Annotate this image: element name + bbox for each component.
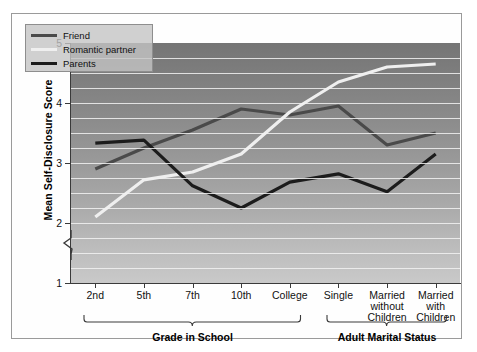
bracket-icon [326,314,447,327]
x-tick [387,283,388,288]
gridline [71,118,460,119]
x-tick [241,283,242,288]
x-tick [95,283,96,288]
legend-swatch-icon [31,34,57,37]
figure: Mean Self-Disclosure Score 12345 2nd5th7… [0,0,477,352]
y-tick [65,103,70,104]
series-line-parents [95,140,435,208]
y-tick-label: 3 [46,157,62,169]
y-tick-label: 4 [46,97,62,109]
x-tick [144,283,145,288]
gridline [71,163,460,164]
bracket-icon [83,314,302,327]
group-bracket-adult-marital-status: Adult Marital Status [326,314,447,345]
legend-item-parents[interactable]: Parents [31,57,147,70]
y-tick-label: 1 [46,277,62,289]
gridline [71,148,460,149]
y-tick [65,223,70,224]
legend-label: Romantic partner [63,44,136,56]
group-label: Grade in School [83,331,302,343]
gridline [71,223,460,224]
legend-swatch-icon [31,48,57,51]
x-tick [193,283,194,288]
gridline [71,88,460,89]
x-tick [290,283,291,288]
series-line-friend [95,106,435,169]
y-axis-title: Mean Self-Disclosure Score [42,70,54,230]
y-axis-break-icon [61,230,75,260]
legend-swatch-icon [31,62,57,65]
group-label: Adult Marital Status [326,331,447,343]
x-axis-line [70,283,461,284]
plot-area [71,43,460,283]
gridline [71,268,460,269]
x-tick [338,283,339,288]
group-bracket-grade-in-school: Grade in School [83,314,302,345]
legend-item-romantic-partner[interactable]: Romantic partner [31,43,147,56]
gridline [71,103,460,104]
y-tick [65,283,70,284]
legend-label: Friend [63,30,90,42]
gridline [71,238,460,239]
y-tick [65,163,70,164]
legend-label: Parents [63,58,96,70]
gridline [71,193,460,194]
figure-frame: Mean Self-Disclosure Score 12345 2nd5th7… [11,13,462,339]
x-tick [436,283,437,288]
legend-item-friend[interactable]: Friend [31,29,147,42]
legend: FriendRomantic partnerParents [25,24,153,72]
gridline [71,73,460,74]
gridline [71,133,460,134]
gridline [71,178,460,179]
gridline [71,208,460,209]
y-tick-label: 2 [46,217,62,229]
gridline [71,253,460,254]
